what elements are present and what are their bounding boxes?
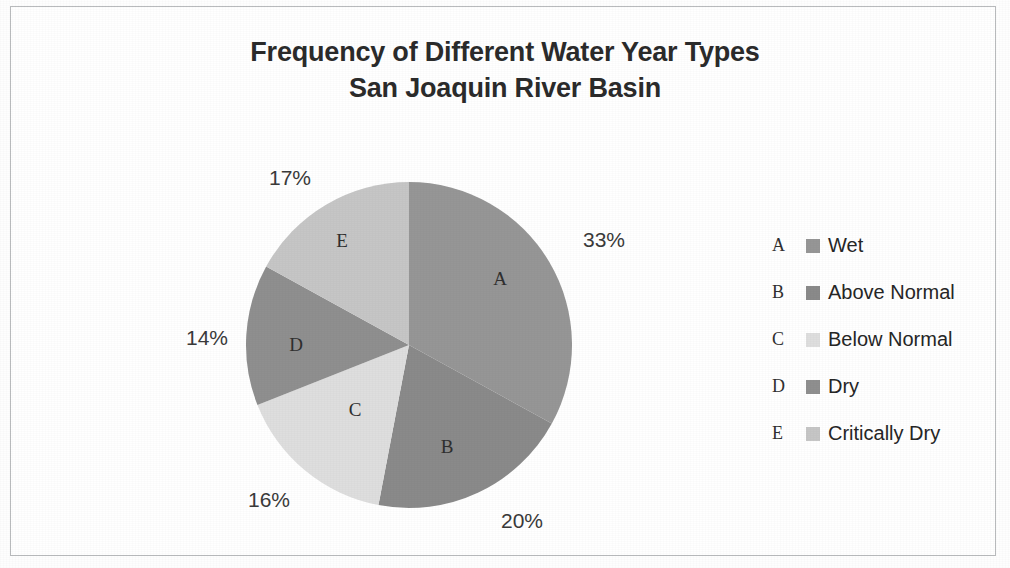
legend-color-swatch-icon	[806, 286, 820, 300]
pie-slice-letter-d: D	[289, 334, 303, 356]
legend-item-a[interactable]: AWet	[772, 222, 997, 269]
legend-item-key: C	[772, 329, 806, 350]
chart-title-line-1: Frequency of Different Water Year Types	[250, 37, 759, 67]
legend-item-label: Critically Dry	[828, 422, 940, 445]
legend-color-swatch-icon	[806, 239, 820, 253]
pie-percent-label: 16%	[248, 488, 290, 512]
pie-slice-letter-c: C	[349, 399, 362, 421]
legend-item-key: B	[772, 282, 806, 303]
pie-slice-letter-b: B	[441, 436, 454, 458]
pie-slice-letter-e: E	[336, 230, 348, 252]
legend-item-label: Dry	[828, 375, 859, 398]
chart-title: Frequency of Different Water Year Types …	[0, 34, 1010, 106]
chart-legend: AWetBAbove NormalCBelow NormalDDryECriti…	[772, 222, 997, 457]
legend-item-key: D	[772, 376, 806, 397]
legend-color-swatch-icon	[806, 333, 820, 347]
legend-item-key: A	[772, 235, 806, 256]
legend-item-d[interactable]: DDry	[772, 363, 997, 410]
figure-canvas: Frequency of Different Water Year Types …	[0, 0, 1010, 568]
chart-title-line-2: San Joaquin River Basin	[0, 70, 1010, 106]
legend-item-key: E	[772, 423, 806, 444]
legend-item-label: Above Normal	[828, 281, 955, 304]
pie-slice-letter-a: A	[493, 268, 507, 290]
pie-percent-label: 17%	[269, 166, 311, 190]
pie-percent-label: 33%	[583, 228, 625, 252]
pie-percent-label: 20%	[501, 509, 543, 533]
legend-item-e[interactable]: ECritically Dry	[772, 410, 997, 457]
pie-percent-label: 14%	[186, 326, 228, 350]
legend-item-label: Wet	[828, 234, 863, 257]
legend-color-swatch-icon	[806, 380, 820, 394]
legend-item-b[interactable]: BAbove Normal	[772, 269, 997, 316]
legend-item-c[interactable]: CBelow Normal	[772, 316, 997, 363]
legend-item-label: Below Normal	[828, 328, 952, 351]
legend-color-swatch-icon	[806, 427, 820, 441]
